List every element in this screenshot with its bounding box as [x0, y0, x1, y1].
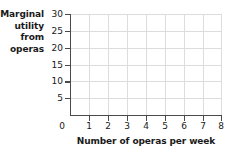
- x-tick-label: 8: [213, 122, 229, 131]
- origin-label: 0: [56, 122, 68, 131]
- gridline-vertical: [127, 14, 128, 115]
- gridline-vertical: [203, 14, 204, 115]
- y-tick-label: 25: [45, 27, 63, 36]
- x-tick-label: 5: [157, 122, 173, 131]
- y-axis-tick: [65, 48, 70, 49]
- gridline-vertical: [165, 14, 166, 115]
- y-axis-title: Marginal utility from operas: [0, 9, 44, 55]
- gridline-vertical: [184, 14, 185, 115]
- x-tick-label: 4: [138, 122, 154, 131]
- x-axis-title: Number of operas per week: [70, 136, 222, 146]
- y-axis-tick: [65, 31, 70, 32]
- y-axis-line: [70, 14, 71, 116]
- y-tick-label: 5: [45, 94, 63, 103]
- gridline-vertical: [89, 14, 90, 115]
- y-axis-tick: [65, 98, 70, 99]
- gridline-vertical: [221, 14, 222, 115]
- y-tick-label-group: 30 25 20 15 10 5: [44, 0, 63, 155]
- gridline-vertical: [108, 14, 109, 115]
- y-tick-label: 15: [45, 61, 63, 70]
- x-tick-label: 1: [81, 122, 97, 131]
- x-tick-label: 3: [119, 122, 135, 131]
- x-tick-label: 6: [176, 122, 192, 131]
- y-tick-label: 30: [45, 10, 63, 19]
- x-tick-label: 2: [100, 122, 116, 131]
- plot-area: [70, 14, 222, 115]
- y-axis-tick: [65, 81, 70, 82]
- marginal-utility-chart: Marginal utility from operas 30 25 20 15…: [0, 0, 231, 155]
- x-tick-label: 7: [195, 122, 211, 131]
- gridline-vertical: [146, 14, 147, 115]
- y-tick-label: 20: [45, 44, 63, 53]
- y-axis-tick: [65, 65, 70, 66]
- y-axis-tick: [65, 14, 70, 15]
- y-tick-label: 10: [45, 77, 63, 86]
